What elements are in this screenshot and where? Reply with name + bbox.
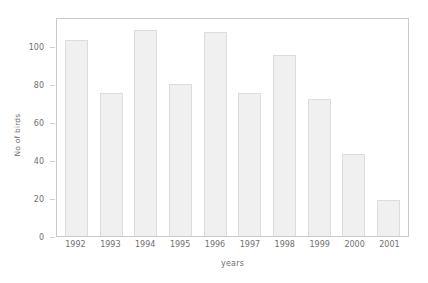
y-tick-mark: [50, 47, 55, 48]
x-tick-label: 1998: [273, 240, 296, 256]
y-tick-mark: [50, 199, 55, 200]
bar: [377, 200, 400, 236]
y-tick-label: 0: [39, 233, 44, 242]
bar: [134, 30, 157, 236]
y-tick-mark: [50, 237, 55, 238]
x-tick-label: 1992: [64, 240, 87, 256]
bar: [100, 93, 123, 236]
bar-chart-figure: No of birds 020406080100 199219931994199…: [0, 0, 428, 283]
x-tick-label: 1993: [99, 240, 122, 256]
y-axis-tick-labels: 020406080100: [0, 0, 58, 283]
x-tick-label: 1999: [308, 240, 331, 256]
x-tick-label: 1996: [204, 240, 227, 256]
bar: [238, 93, 261, 236]
bar: [169, 84, 192, 236]
x-axis-title: years: [56, 259, 409, 268]
bar: [273, 55, 296, 236]
y-tick-mark: [50, 161, 55, 162]
x-axis-tick-labels: 1992199319941995199619971998199920002001: [56, 240, 409, 256]
x-tick-label: 1997: [238, 240, 261, 256]
bar: [204, 32, 227, 236]
y-tick-label: 80: [34, 80, 44, 89]
bar: [65, 40, 88, 236]
bar: [342, 154, 365, 236]
y-tick-label: 40: [34, 156, 44, 165]
x-tick-label: 2000: [343, 240, 366, 256]
x-tick-label: 1995: [169, 240, 192, 256]
x-tick-label: 1994: [134, 240, 157, 256]
y-tick-mark: [50, 123, 55, 124]
y-tick-mark: [50, 85, 55, 86]
bar-series: [57, 19, 408, 236]
plot-area: [56, 18, 409, 237]
y-tick-label: 20: [34, 194, 44, 203]
y-tick-label: 60: [34, 118, 44, 127]
y-tick-label: 100: [29, 42, 44, 51]
x-tick-label: 2001: [378, 240, 401, 256]
bar: [308, 99, 331, 236]
